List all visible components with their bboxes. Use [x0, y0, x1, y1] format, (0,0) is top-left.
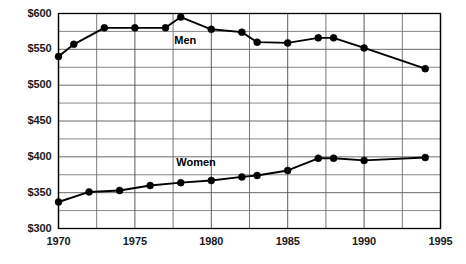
data-point	[361, 157, 368, 164]
data-point	[208, 26, 215, 33]
x-axis-tick-label: 1975	[123, 235, 147, 247]
x-axis-tick-label: 1980	[199, 235, 223, 247]
y-axis-tick-label: $300	[27, 222, 51, 234]
data-point	[330, 34, 337, 41]
y-axis-tick-label: $350	[27, 186, 51, 198]
data-point	[254, 39, 261, 46]
data-point	[315, 34, 322, 41]
series-line-men	[59, 17, 426, 69]
y-axis-tick-label: $400	[27, 150, 51, 162]
data-point	[162, 24, 169, 31]
data-point	[238, 173, 245, 180]
data-point	[315, 155, 322, 162]
data-point	[131, 24, 138, 31]
data-point	[55, 53, 62, 60]
data-point	[284, 167, 291, 174]
x-axis-tick-label: 1970	[46, 235, 70, 247]
x-axis-tick-label: 1985	[276, 235, 300, 247]
series-label-women: Women	[176, 156, 216, 168]
x-axis-tick-label: 1990	[352, 235, 376, 247]
data-point	[422, 65, 429, 72]
x-axis-tick-label: 1995	[428, 235, 452, 247]
y-axis-tick-label: $450	[27, 114, 51, 126]
data-point	[101, 24, 108, 31]
series-label-men: Men	[174, 34, 196, 46]
data-point	[70, 41, 77, 48]
data-point	[284, 39, 291, 46]
data-point	[116, 187, 123, 194]
data-point	[330, 155, 337, 162]
data-point	[422, 154, 429, 161]
data-point	[86, 188, 93, 195]
line-chart: MenWomen$600$550$500$450$400$350$3001970…	[0, 0, 466, 264]
data-point	[55, 198, 62, 205]
data-point	[208, 177, 215, 184]
data-point	[254, 172, 261, 179]
y-axis-tick-label: $550	[27, 42, 51, 54]
y-axis-tick-label: $500	[27, 78, 51, 90]
data-point	[361, 44, 368, 51]
y-axis-tick-label: $600	[27, 7, 51, 19]
plot-area	[0, 0, 466, 264]
data-point	[238, 29, 245, 36]
data-point	[147, 182, 154, 189]
data-point	[177, 179, 184, 186]
data-point	[177, 14, 184, 21]
